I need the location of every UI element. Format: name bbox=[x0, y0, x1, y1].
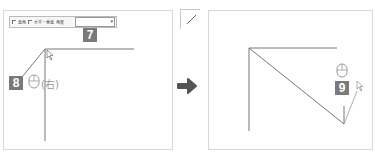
right-drawing bbox=[209, 11, 374, 151]
mouse-pointer-icon bbox=[357, 81, 363, 91]
step-badge-9: 9 bbox=[335, 81, 349, 95]
right-canvas-panel[interactable]: 9 bbox=[208, 10, 373, 150]
